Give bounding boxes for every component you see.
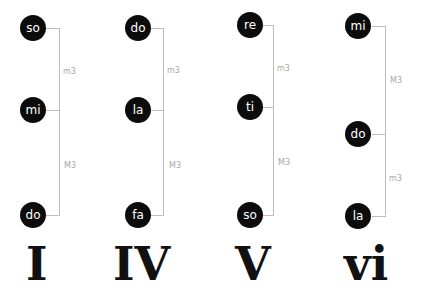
bracket-line — [273, 25, 274, 215]
note-top: so — [20, 15, 46, 41]
bracket-tick-bottom — [372, 216, 386, 217]
note-middle: la — [125, 97, 151, 123]
note-middle: ti — [237, 94, 263, 120]
chord-V: re ti so m3 M3 V — [215, 0, 320, 301]
note-middle: do — [345, 121, 371, 147]
note-top: do — [125, 15, 151, 41]
note-middle: mi — [20, 97, 46, 123]
chord-vi: mi do la M3 m3 vi — [320, 0, 425, 301]
bracket-tick-middle — [151, 110, 164, 111]
bracket-tick-middle — [372, 134, 386, 135]
interval-upper: m3 — [167, 66, 180, 75]
note-bottom: so — [237, 202, 263, 228]
bracket-tick-top — [372, 26, 386, 27]
roman-numeral: I — [26, 238, 48, 290]
note-top: mi — [345, 13, 371, 39]
interval-lower: M3 — [278, 158, 290, 167]
bracket-tick-bottom — [151, 215, 164, 216]
roman-numeral: IV — [113, 238, 170, 290]
interval-upper: M3 — [390, 76, 402, 85]
bracket-line — [163, 28, 164, 215]
bracket-tick-bottom — [46, 215, 60, 216]
note-bottom: fa — [125, 202, 151, 228]
bracket-tick-top — [151, 28, 164, 29]
note-bottom: do — [20, 202, 46, 228]
interval-lower: m3 — [389, 174, 402, 183]
roman-numeral: V — [235, 238, 271, 290]
bracket-tick-top — [46, 28, 60, 29]
roman-numeral: vi — [344, 238, 388, 290]
chord-I: so mi do m3 M3 I — [0, 0, 105, 301]
interval-upper: m3 — [63, 67, 76, 76]
bracket-line — [59, 28, 60, 215]
bracket-line — [385, 26, 386, 215]
bracket-tick-middle — [46, 110, 60, 111]
note-bottom: la — [345, 203, 371, 229]
note-top: re — [237, 12, 263, 38]
chord-IV: do la fa m3 M3 IV — [105, 0, 215, 301]
interval-lower: M3 — [169, 161, 181, 170]
interval-upper: m3 — [277, 64, 290, 73]
interval-lower: M3 — [64, 161, 76, 170]
